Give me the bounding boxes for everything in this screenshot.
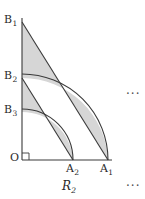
label-b2-sub: 2	[12, 75, 17, 84]
right-angle-marker-icon	[22, 153, 29, 160]
label-a1-text: A	[100, 162, 108, 175]
label-b3: B3	[4, 104, 17, 115]
figure-caption-text: R	[62, 179, 71, 193]
label-b2: B2	[4, 70, 17, 81]
label-b1-sub: 1	[12, 19, 17, 28]
label-a2-sub: 2	[74, 168, 79, 177]
label-b3-text: B	[4, 103, 12, 116]
label-a2: A2	[66, 163, 79, 174]
label-b1: B1	[4, 14, 17, 25]
ellipsis-right: ···	[126, 88, 140, 100]
label-origin-text: O	[10, 151, 19, 164]
label-a2-text: A	[66, 162, 74, 175]
ellipsis-caption-row: ···	[126, 180, 140, 192]
label-b2-text: B	[4, 69, 12, 82]
label-origin: O	[10, 152, 19, 163]
label-b3-sub: 3	[12, 109, 17, 118]
label-a1: A1	[100, 163, 113, 174]
figure-caption-sub: 2	[71, 186, 76, 195]
figure-caption: R2	[62, 180, 76, 192]
label-a1-sub: 1	[108, 168, 113, 177]
figure-container: B1 B2 B3 O A2 A1 R2 ··· ···	[0, 0, 145, 199]
label-b1-text: B	[4, 13, 12, 26]
arc-b3-a2	[22, 109, 73, 160]
